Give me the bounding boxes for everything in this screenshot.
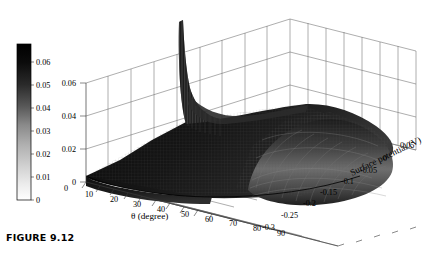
y-tick-label: -0.3 (262, 223, 275, 232)
colorbar-tick-label: 0.06 (36, 58, 50, 67)
x-tick-label: 0 (64, 184, 68, 193)
colorbar-tick-label: 0.04 (36, 104, 50, 113)
x-axis-title: θ (degree) (131, 211, 168, 221)
y-tick-label: -0.2 (303, 199, 316, 208)
figure-container: 0 0.02 0.04 0.06 0 10 20 30 40 (0, 0, 447, 253)
colorbar-tick-label: 0.02 (36, 150, 50, 159)
z-tick-label: 0.04 (62, 112, 76, 121)
y-tick-label: -0.25 (281, 211, 298, 220)
x-tick-label: 80 (253, 224, 261, 233)
z-tick-label: 0 (72, 178, 76, 187)
figure-caption: FIGURE 9.12 (6, 232, 74, 243)
z-axis: 0 0.02 0.04 0.06 (62, 79, 86, 187)
colorbar-gradient (17, 44, 31, 200)
y-tick-label: -0.1 (341, 177, 354, 186)
x-tick-label: 30 (133, 200, 141, 209)
x-tick-label: 60 (205, 215, 213, 224)
z-tick-label: 0.02 (62, 145, 76, 154)
x-tick-label: 70 (229, 219, 237, 228)
x-tick-label: 50 (181, 210, 189, 219)
colorbar-group: 0.06 0.05 0.04 0.03 0.02 0.01 0 (17, 44, 50, 205)
surface-plot: 0 0.02 0.04 0.06 0 10 20 30 40 (0, 0, 447, 253)
colorbar-tick-label: 0.01 (36, 173, 50, 182)
x-tick-label: 20 (110, 195, 118, 204)
colorbar-tick-label: 0.05 (36, 81, 50, 90)
y-tick-label: -0.15 (320, 188, 337, 197)
colorbar-tick-label: 0 (36, 196, 40, 205)
x-tick-label: 10 (85, 190, 93, 199)
colorbar-tick-label: 0.03 (36, 127, 50, 136)
z-tick-label: 0.06 (62, 79, 76, 88)
x-tick-label: 90 (277, 229, 285, 238)
